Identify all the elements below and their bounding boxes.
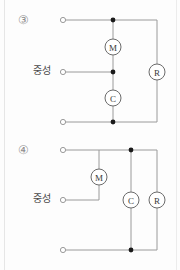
motor-label: M [95,173,103,183]
terminal-bottom-icon[interactable] [60,247,65,252]
capacitor-label: C [128,196,134,206]
resistor-label: R [154,196,160,206]
diagram-4: M C R [60,147,165,252]
terminal-bottom-icon[interactable] [60,119,65,124]
neutral-label-3: 중성 [33,66,51,76]
terminal-top-icon[interactable] [60,17,65,22]
resistor-component[interactable]: R [149,64,165,80]
option-number-3: ③ [18,14,29,26]
resistor-label: R [154,68,160,78]
junction-bottom-node [111,120,116,125]
junction-neutral-node [111,70,116,75]
capacitor-label: C [110,94,116,104]
motor-component[interactable]: M [91,169,107,185]
junction-top-node [111,18,116,23]
terminal-neutral-icon[interactable] [60,197,65,202]
neutral-label-4: 중성 [33,194,51,204]
motor-component[interactable]: M [105,39,121,55]
diagram-sheet: .wire{stroke:#9a9a9a;stroke-width:1;fill… [0,0,180,270]
junction-top-node [129,148,134,153]
motor-label: M [109,43,117,53]
junction-bottom-node [129,248,134,253]
resistor-component[interactable]: R [149,192,165,208]
capacitor-component[interactable]: C [123,192,139,208]
capacitor-component[interactable]: C [105,90,121,106]
option-number-4: ④ [18,144,29,156]
circuit-canvas: .wire{stroke:#9a9a9a;stroke-width:1;fill… [0,0,180,270]
terminal-top-icon[interactable] [60,147,65,152]
diagram-3: M C R [60,17,165,124]
terminal-neutral-icon[interactable] [60,69,65,74]
